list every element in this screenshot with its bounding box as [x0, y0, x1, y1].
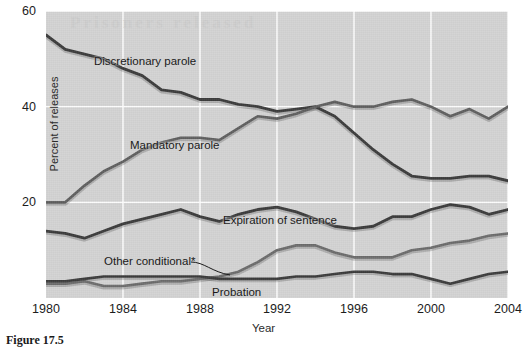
y-tick-20: 20: [6, 196, 36, 209]
plot-area: Prisoners released Discretionary parole …: [46, 11, 508, 298]
x-tick-2004: 2004: [484, 303, 527, 316]
series-label-expiration-of-sentence: Expiration of sentence: [223, 214, 337, 226]
series-label-other-conditional: Other conditional*: [104, 255, 195, 267]
series-label-discretionary-parole: Discretionary parole: [94, 55, 196, 67]
other-conditional-leader-line: [190, 258, 232, 280]
figure-caption: Figure 17.5: [6, 333, 64, 348]
x-tick-2000: 2000: [407, 303, 455, 316]
y-tick-40: 40: [6, 101, 36, 114]
x-tick-1984: 1984: [99, 303, 147, 316]
x-tick-1992: 1992: [253, 303, 301, 316]
y-tick-60: 60: [6, 5, 36, 18]
series-label-probation: Probation: [212, 286, 261, 298]
x-tick-1980: 1980: [22, 303, 70, 316]
x-tick-1988: 1988: [176, 303, 224, 316]
bleed-through-artifact: Prisoners released: [70, 13, 490, 39]
x-tick-1996: 1996: [330, 303, 378, 316]
series-label-mandatory-parole: Mandatory parole: [130, 139, 220, 151]
x-axis-label: Year: [0, 322, 527, 334]
y-axis-label: Percent of releases: [48, 64, 60, 184]
